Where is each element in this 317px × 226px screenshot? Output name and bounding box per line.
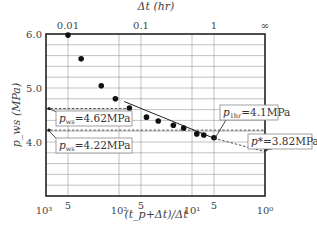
data-point (171, 122, 177, 128)
annotation-pws2: pws=4.22MPa (47, 129, 132, 153)
top-x-tick-labels: 0.010.11∞ (57, 20, 269, 31)
data-point (113, 96, 119, 102)
data-point (98, 83, 104, 89)
x-axis-label: (t_p+Δt)/Δt (124, 208, 188, 221)
x-tick-label: 10³ (36, 205, 53, 216)
top-x-tick-label: 1 (211, 20, 217, 31)
horner-plot: 10³510²510¹510⁰ 0.010.11∞ 6.05.04.0 pws=… (0, 0, 317, 226)
x-tick-label: 10⁰ (257, 205, 274, 216)
y-tick-label: 6.0 (26, 29, 42, 40)
y-tick-label: 5.0 (26, 83, 42, 94)
data-point (201, 132, 207, 138)
top-x-tick-label: 0.1 (133, 20, 149, 31)
x-tick-label: 5 (211, 200, 217, 211)
fit-line (124, 102, 214, 139)
data-point (144, 114, 150, 120)
data-point (194, 131, 200, 137)
arrowhead (47, 107, 50, 110)
top-x-axis-label: Δt (hr) (137, 0, 175, 13)
x-tick-label: 5 (65, 200, 71, 211)
y-axis-label: p_ws (MPa) (10, 83, 23, 147)
arrowhead (213, 137, 216, 140)
data-point (78, 56, 84, 62)
y-tick-labels: 6.05.04.0 (26, 29, 42, 148)
leader-line (215, 120, 226, 138)
annotation-text: p*=3.82MPa (251, 135, 317, 147)
arrowhead (47, 129, 50, 132)
data-point (155, 118, 161, 124)
top-x-tick-label: 0.01 (57, 20, 79, 31)
data-point (65, 32, 71, 38)
annotation-pstar: p*=3.82MPa (248, 134, 317, 151)
y-tick-label: 4.0 (26, 137, 42, 148)
top-x-tick-label: ∞ (261, 20, 269, 31)
data-point (127, 105, 133, 111)
data-point (181, 125, 187, 131)
